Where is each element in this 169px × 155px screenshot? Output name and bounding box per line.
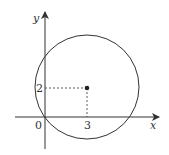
origin-label: 0 [35,119,42,132]
x-axis-label: x [150,119,157,132]
center-x-label: 3 [84,119,91,132]
y-axis-label: y [32,12,40,25]
center-y-label: 2 [36,82,43,95]
center-point [85,86,90,91]
coordinate-diagram: y x 0 3 2 [0,0,169,155]
